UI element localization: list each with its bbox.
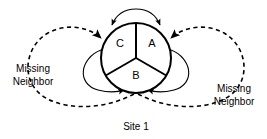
left-missing-neighbor-label: Missing Neighbor [13,63,54,87]
sector-label-c: C [116,37,124,49]
figure-caption: Site 1 [123,121,149,132]
right-missing-neighbor-line2: Neighbor [214,96,255,107]
left-missing-neighbor-line2: Neighbor [13,76,54,87]
sector-label-a: A [148,37,156,49]
right-missing-neighbor-line1: Missing [217,83,251,94]
site-sector-diagram: C A B Missing Neighbor Missing Neighbor … [0,0,267,139]
left-missing-neighbor-line1: Missing [16,63,50,74]
site-circle: C A B [101,23,171,93]
sector-label-b: B [132,69,139,81]
right-missing-neighbor-label: Missing Neighbor [214,83,255,107]
